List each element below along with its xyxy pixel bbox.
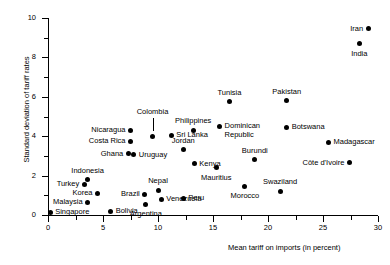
point-label: Botswana xyxy=(292,123,325,132)
data-point[interactable] xyxy=(156,188,161,193)
x-tick-label-5: 5 xyxy=(88,224,118,232)
data-point[interactable] xyxy=(284,125,289,130)
point-label: Nepal xyxy=(148,177,168,186)
data-point[interactable] xyxy=(357,41,362,46)
y-tick-label-10: 10 xyxy=(8,14,36,22)
point-label: Morocco xyxy=(231,192,260,201)
y-tick-label-8: 8 xyxy=(8,53,36,61)
point-label: Burundi xyxy=(242,147,268,156)
data-point[interactable] xyxy=(181,196,186,201)
label-leader-line xyxy=(153,118,154,131)
x-tick-0 xyxy=(48,216,49,222)
data-point[interactable] xyxy=(366,26,371,31)
scatter-plot: Standard deviation of tariff rates Mean … xyxy=(0,0,390,265)
point-label: Brazil xyxy=(121,190,140,199)
point-label: Malaysia xyxy=(53,198,83,207)
point-label: Swaziland xyxy=(263,178,297,187)
point-label: Singapore xyxy=(55,208,89,217)
y-tick-label-0: 0 xyxy=(8,211,36,219)
y-tick-minor xyxy=(44,195,48,196)
x-tick-label-25: 25 xyxy=(308,224,338,232)
x-tick-25 xyxy=(323,216,324,222)
point-label: Peru xyxy=(188,194,204,203)
y-tick-6 xyxy=(42,97,48,98)
data-point[interactable] xyxy=(82,182,87,187)
x-tick-minor xyxy=(186,216,187,220)
x-tick-20 xyxy=(268,216,269,222)
x-tick-minor xyxy=(241,216,242,220)
x-tick-minor xyxy=(76,216,77,220)
x-tick-30 xyxy=(378,216,379,222)
data-point[interactable] xyxy=(217,124,222,129)
y-axis-line xyxy=(48,18,49,215)
x-tick-15 xyxy=(213,216,214,222)
data-point[interactable] xyxy=(142,192,147,197)
data-point[interactable] xyxy=(252,157,257,162)
point-label: DominicanRepublic xyxy=(225,122,260,139)
data-point[interactable] xyxy=(95,191,100,196)
point-label: Philippines xyxy=(175,117,211,126)
point-label: Pakistan xyxy=(272,87,301,96)
x-tick-label-10: 10 xyxy=(143,224,173,232)
point-label: Ghana xyxy=(101,150,124,159)
y-tick-minor xyxy=(44,38,48,39)
data-point[interactable] xyxy=(192,161,197,166)
data-point[interactable] xyxy=(278,189,283,194)
x-tick-minor xyxy=(351,216,352,220)
point-label: India xyxy=(351,49,367,58)
data-point[interactable] xyxy=(326,140,331,145)
y-tick-label-2: 2 xyxy=(8,172,36,180)
x-tick-label-0: 0 xyxy=(33,224,63,232)
point-label: Tunisia xyxy=(218,88,242,97)
data-point[interactable] xyxy=(143,202,148,207)
y-tick-10 xyxy=(42,18,48,19)
point-label: Uruguay xyxy=(139,151,167,160)
data-point[interactable] xyxy=(48,210,53,215)
y-tick-minor xyxy=(44,117,48,118)
data-point[interactable] xyxy=(284,98,289,103)
y-tick-minor xyxy=(44,77,48,78)
x-tick-label-20: 20 xyxy=(253,224,283,232)
point-label: Côte d'Ivoire xyxy=(303,159,345,168)
point-label: Indonesia xyxy=(71,166,104,175)
x-tick-5 xyxy=(103,216,104,222)
data-point[interactable] xyxy=(128,128,133,133)
y-tick-label-4: 4 xyxy=(8,132,36,140)
y-tick-2 xyxy=(42,176,48,177)
point-label: Iran xyxy=(350,25,363,34)
point-label: Nicaragua xyxy=(91,126,125,135)
point-label: Costa Rica xyxy=(89,137,126,146)
data-point[interactable] xyxy=(85,177,90,182)
data-point[interactable] xyxy=(227,99,232,104)
point-label: Colombia xyxy=(137,108,169,117)
y-tick-4 xyxy=(42,136,48,137)
data-point[interactable] xyxy=(242,184,247,189)
y-tick-label-6: 6 xyxy=(8,93,36,101)
x-axis-title: Mean tariff on imports (in percent) xyxy=(228,243,340,252)
x-tick-label-15: 15 xyxy=(198,224,228,232)
point-label: Madagascar xyxy=(334,138,375,147)
data-point[interactable] xyxy=(214,165,219,170)
y-tick-minor xyxy=(44,156,48,157)
data-point[interactable] xyxy=(126,151,131,156)
point-label: Mauritius xyxy=(201,173,231,182)
data-point[interactable] xyxy=(347,160,352,165)
data-point[interactable] xyxy=(159,197,164,202)
data-point[interactable] xyxy=(181,147,186,152)
data-point[interactable] xyxy=(150,134,155,139)
x-tick-label-30: 30 xyxy=(363,224,390,232)
data-point[interactable] xyxy=(85,200,90,205)
point-label: Bolivia xyxy=(116,207,138,216)
data-point[interactable] xyxy=(108,209,113,214)
data-point[interactable] xyxy=(128,139,133,144)
data-point[interactable] xyxy=(131,152,136,157)
point-label: Jordan xyxy=(172,137,195,146)
x-tick-minor xyxy=(296,216,297,220)
y-tick-8 xyxy=(42,57,48,58)
